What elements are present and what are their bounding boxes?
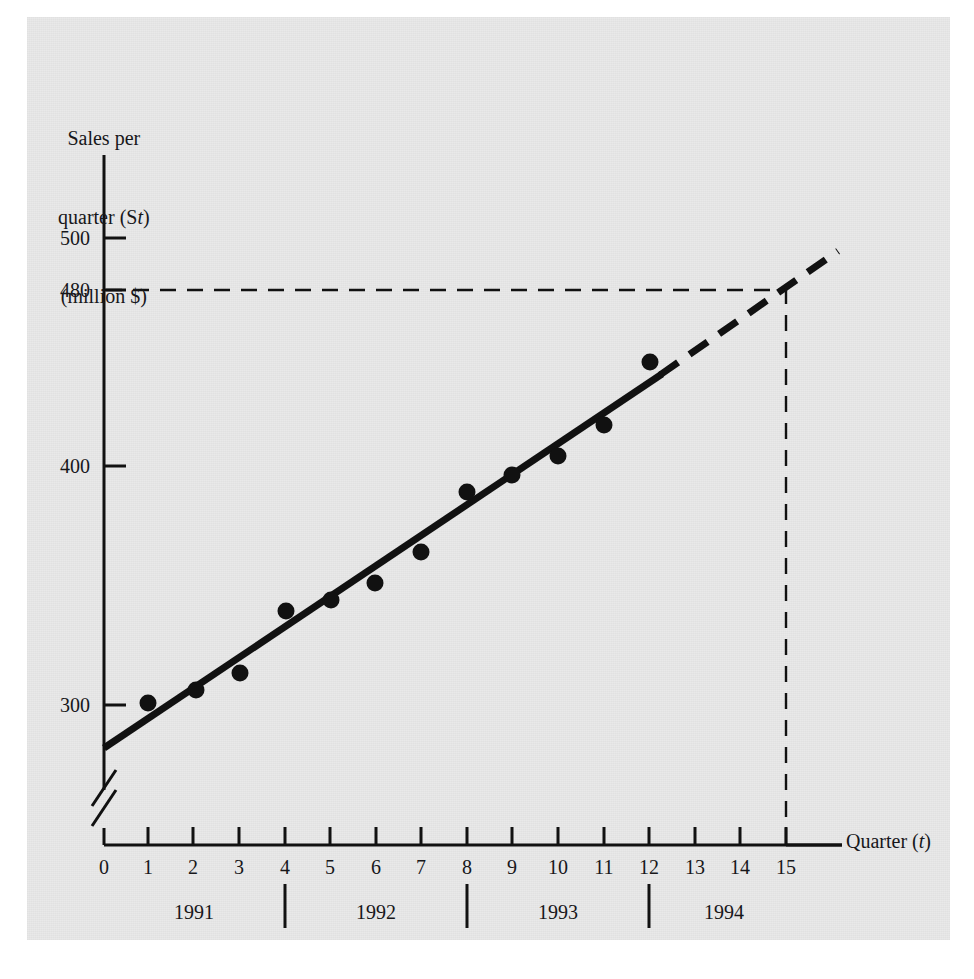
data-point [413, 544, 430, 561]
data-point [323, 592, 340, 609]
x-axis-title: Quarter (t) [846, 828, 931, 854]
data-point [550, 448, 567, 465]
year-label-1992: 1992 [331, 901, 421, 924]
data-point [504, 467, 521, 484]
y-tick-label-300: 300 [26, 694, 90, 717]
year-label-1993: 1993 [513, 901, 603, 924]
x-tick-label-15: 15 [766, 856, 806, 879]
x-axis-title-text: Quarter ( [846, 830, 919, 852]
axis-break-icon [92, 790, 116, 826]
data-point [459, 484, 476, 501]
x-tick-label-8: 8 [447, 856, 487, 879]
y-axis-title-line-2-close: ) [143, 206, 150, 228]
x-tick-marks [148, 827, 786, 845]
data-point [232, 665, 249, 682]
x-tick-label-4: 4 [265, 856, 305, 879]
data-point [278, 603, 295, 620]
trend-line-dashed [660, 251, 838, 375]
data-point [596, 417, 613, 434]
data-point [188, 682, 205, 699]
y-axis-title-line-2-text: quarter (S [58, 206, 137, 228]
data-point [367, 575, 384, 592]
year-label-1991: 1991 [149, 901, 239, 924]
data-point [140, 695, 157, 712]
x-tick-label-1: 1 [128, 856, 168, 879]
data-points [140, 354, 659, 712]
y-tick-label-400: 400 [26, 455, 90, 478]
x-tick-label-13: 13 [675, 856, 715, 879]
year-label-1994: 1994 [679, 901, 769, 924]
x-tick-label-5: 5 [310, 856, 350, 879]
x-tick-label-9: 9 [492, 856, 532, 879]
x-tick-label-14: 14 [720, 856, 760, 879]
data-point [642, 354, 659, 371]
x-axis-title-close: ) [924, 830, 931, 852]
x-tick-label-12: 12 [629, 856, 669, 879]
x-tick-label-0: 0 [84, 856, 124, 879]
x-tick-label-6: 6 [356, 856, 396, 879]
y-tick-label-500: 500 [26, 227, 90, 250]
x-tick-label-11: 11 [584, 856, 624, 879]
y-axis-title-line-1: Sales per [58, 125, 150, 151]
x-tick-label-2: 2 [173, 856, 213, 879]
x-tick-label-7: 7 [401, 856, 441, 879]
trend-line-solid [104, 374, 662, 748]
x-tick-label-3: 3 [219, 856, 259, 879]
x-tick-label-10: 10 [538, 856, 578, 879]
y-tick-label-480: 480 [26, 279, 90, 302]
